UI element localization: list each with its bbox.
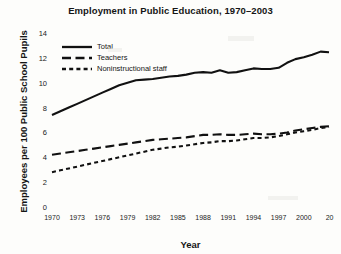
legend-item: Total (62, 42, 167, 52)
x-axis-tick-label: 1973 (69, 214, 85, 221)
y-axis-title: Employees per 100 Public School Pupils (18, 27, 29, 217)
legend-item: Teachers (62, 53, 167, 63)
x-axis-tick-label: 1979 (120, 214, 136, 221)
x-axis-tick-label: 1970 (44, 214, 60, 221)
legend-line-sample-icon (62, 53, 92, 63)
legend-label: Teachers (97, 54, 127, 62)
chart-figure: Employment in Public Education, 1970–200… (0, 0, 341, 254)
y-axis-tick-label: 12 (39, 53, 47, 62)
x-axis-tick-label: 1976 (95, 214, 111, 221)
y-axis-tick-label: 0 (43, 203, 47, 212)
legend-line-sample-icon (62, 64, 92, 74)
legend-line-sample-icon (62, 42, 92, 52)
legend-label: Total (97, 43, 113, 51)
x-axis-tick-label: 2000 (296, 214, 312, 221)
chart-title: Employment in Public Education, 1970–200… (0, 5, 341, 16)
legend-label: Noninstructional staff (97, 65, 167, 73)
chart-legend: TotalTeachersNoninstructional staff (62, 42, 167, 75)
series-line-teachers (52, 126, 329, 155)
y-axis-tick-label: 2 (43, 178, 47, 187)
x-axis-tick-label: 1988 (195, 214, 211, 221)
x-axis-tick-label: 1997 (271, 214, 287, 221)
x-axis-tick-label: 1982 (145, 214, 161, 221)
y-axis-tick-label: 6 (43, 128, 47, 137)
y-axis-tick-label: 8 (43, 103, 47, 112)
x-axis-title: Year (40, 239, 341, 250)
y-axis-tick-label: 10 (39, 78, 47, 87)
x-axis-tick-label: 20 (326, 214, 334, 221)
x-axis-tick-label: 1985 (170, 214, 186, 221)
legend-item: Noninstructional staff (62, 64, 167, 74)
y-axis-tick-label: 4 (43, 153, 47, 162)
y-axis-tick-label: 14 (39, 29, 47, 38)
x-axis-tick-label: 1994 (246, 214, 262, 221)
x-axis-tick-label: 1991 (220, 214, 236, 221)
